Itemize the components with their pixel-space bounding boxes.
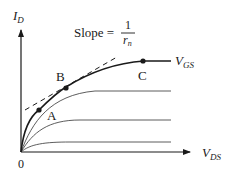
slope-denominator: rn bbox=[123, 33, 132, 48]
y-axis-label: ID bbox=[12, 8, 24, 25]
origin-label: 0 bbox=[18, 157, 24, 171]
slope-prefix: Slope = bbox=[74, 25, 114, 40]
point-b-label: B bbox=[56, 69, 65, 84]
point-a-label: A bbox=[47, 108, 57, 123]
x-axis-label: VDS bbox=[202, 145, 221, 162]
curve-vgs-top bbox=[21, 61, 171, 152]
point-a-marker bbox=[36, 107, 41, 112]
vgs-curve-label: VGS bbox=[175, 53, 194, 70]
point-c-label: C bbox=[138, 68, 147, 83]
curve-vgs-3 bbox=[21, 91, 171, 152]
curve-vgs-2 bbox=[21, 120, 171, 152]
curve-vgs-1 bbox=[21, 142, 171, 152]
point-c-marker bbox=[140, 58, 145, 63]
point-b-marker bbox=[63, 85, 68, 90]
mosfet-iv-diagram: A B C ID VDS 0 VGS Slope = 1 rn bbox=[0, 0, 231, 171]
slope-numerator: 1 bbox=[125, 18, 131, 32]
